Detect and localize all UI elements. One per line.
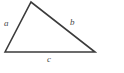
side-label-b: b [70,18,75,27]
triangle-figure: a b c [0,0,124,73]
side-label-c: c [47,55,51,64]
triangle-shape [0,0,124,73]
side-label-a: a [4,19,9,28]
triangle-outline [5,2,95,52]
